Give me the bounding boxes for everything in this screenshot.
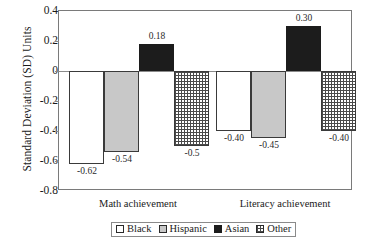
bar-value-hispanic-literacy: -0.45 [245,141,293,151]
bar-hispanic-literacy [251,71,286,138]
category-label-math: Math achievement [78,198,198,209]
y-tick-label-6: -0.8 [18,185,58,197]
y-tick-label-2: 0 [18,65,58,77]
legend-swatch-gray-icon [159,225,167,233]
bar-asian-literacy [286,26,321,71]
y-tick-mark--0.2 [55,101,59,102]
y-tick-mark--0.4 [55,131,59,132]
legend-label-hispanic: Hispanic [170,224,207,235]
y-tick-label-4: -0.4 [18,125,58,137]
legend-item-hispanic[interactable]: Hispanic [159,224,207,235]
bar-hispanic-math [104,71,139,152]
bar-value-hispanic-math: -0.54 [98,155,146,165]
legend-item-asian[interactable]: Asian [214,224,250,235]
legend-label-black: Black [127,224,152,235]
legend-swatch-black-icon [214,225,222,233]
y-tick-mark-0.2 [55,41,59,42]
bar-value-asian-literacy: 0.30 [280,14,328,24]
bar-other-math [174,71,209,146]
bar-chart: Standard Deviation (SD) Units 0.4 0.2 0 … [0,0,380,240]
legend-swatch-white-icon [116,225,124,233]
bar-value-asian-math: 0.18 [133,32,181,42]
y-tick-label-0: 0.4 [18,5,58,17]
bar-other-literacy [321,71,356,131]
y-tick-mark--0.6 [55,161,59,162]
legend-label-other: Other [267,224,291,235]
legend-swatch-grid-icon [256,225,264,233]
legend-label-asian: Asian [225,224,250,235]
y-tick-label-3: -0.2 [18,95,58,107]
category-label-literacy: Literacy achievement [225,198,345,209]
cropped-title-sliver [100,0,320,3]
legend-item-other[interactable]: Other [256,224,291,235]
legend: Black Hispanic Asian Other [111,222,296,237]
y-tick-label-5: -0.6 [18,155,58,167]
bar-black-math [69,71,104,164]
bar-black-literacy [216,71,251,131]
plot-area: -0.62 -0.54 0.18 -0.5 -0.40 -0.45 0.30 -… [58,10,352,190]
bar-asian-math [139,44,174,71]
y-tick-label-1: 0.2 [18,35,58,47]
bar-value-other-math: -0.5 [168,149,216,159]
legend-item-black[interactable]: Black [116,224,152,235]
bar-value-other-literacy: -0.40 [315,134,363,144]
bar-value-black-math: -0.62 [63,167,111,177]
